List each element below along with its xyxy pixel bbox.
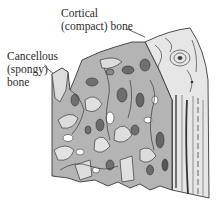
bone-illustration <box>0 0 217 206</box>
cancellous-bone-region <box>52 42 172 190</box>
cortical-leader-line <box>127 29 145 37</box>
cancellous-leader-line <box>44 66 54 74</box>
